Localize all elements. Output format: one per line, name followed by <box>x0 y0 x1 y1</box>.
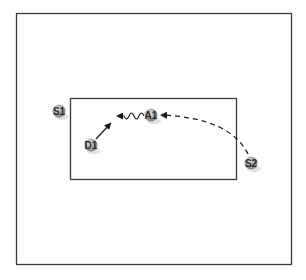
player-a1: A1 <box>145 109 162 125</box>
a1-dribble-arrow <box>118 113 144 119</box>
court-outer-frame <box>17 14 292 265</box>
player-label: D1 <box>85 140 98 151</box>
player-label: S2 <box>245 158 258 169</box>
player-label: S1 <box>53 106 66 117</box>
d1-movement-arrow <box>96 124 110 139</box>
play-diagram: S1 A1 D1 S2 <box>0 0 306 280</box>
player-s2: S2 <box>245 157 262 173</box>
player-s1: S1 <box>53 105 70 121</box>
player-label: A1 <box>145 110 158 121</box>
s2-pass-arrow <box>162 115 248 154</box>
player-d1: D1 <box>85 139 102 155</box>
